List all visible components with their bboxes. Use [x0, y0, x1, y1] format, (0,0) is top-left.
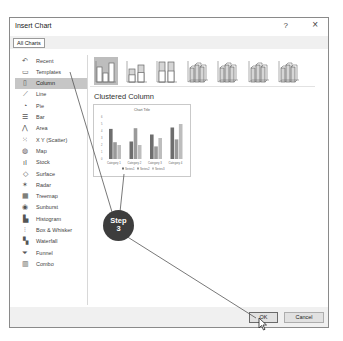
sidebar-item-waterfall[interactable]: ▚Waterfall — [15, 236, 87, 247]
subtype-3d-clustered-column[interactable] — [186, 57, 210, 85]
subtype-100-stacked-column[interactable] — [155, 57, 179, 85]
sidebar-item-label: Column — [36, 80, 55, 86]
sidebar-item-funnel[interactable]: ⏷Funnel — [15, 247, 87, 258]
sidebar-item-label: Stock — [36, 159, 50, 165]
subtype-3d-column[interactable] — [277, 57, 301, 85]
sidebar-item-line[interactable]: ⟋Line — [15, 89, 87, 100]
svg-text:3: 3 — [101, 136, 103, 140]
subtype-title: Clustered Column — [94, 92, 154, 101]
tab-all-charts[interactable]: All Charts — [13, 38, 45, 48]
subtype-clustered-column[interactable] — [94, 57, 118, 85]
treemap-chart-icon: ▦ — [20, 192, 30, 200]
chart-type-list: ↶Recent▭Templates▯Column⟋Line◔Pie☰Bar⋀Ar… — [15, 55, 88, 305]
sidebar-item-label: Histogram — [36, 216, 61, 222]
tab-bar: All Charts — [10, 36, 328, 49]
chart-preview: Chart Title 6543210Category 1Category 2C… — [93, 104, 191, 177]
radar-chart-icon: ✶ — [20, 181, 30, 189]
insert-chart-dialog: Insert Chart ? × All Charts ↶Recent▭Temp… — [9, 17, 329, 328]
column-chart-icon — [247, 57, 271, 85]
svg-text:Series3: Series3 — [155, 167, 165, 171]
combo-chart-icon: ▥ — [20, 260, 30, 268]
sidebar-item-label: Map — [36, 148, 47, 154]
dialog-title: Insert Chart — [15, 22, 52, 29]
surface-chart-icon: ◇ — [20, 170, 30, 178]
column-chart-icon — [277, 57, 301, 85]
histogram-chart-icon: ▙ — [20, 215, 30, 223]
stock-chart-icon: ıI — [20, 159, 30, 166]
recent-icon: ↶ — [20, 57, 30, 65]
chart-content-pane: Clustered Column Chart Title 6543210Cate… — [90, 49, 325, 309]
sidebar-item-label: Sunburst — [36, 204, 58, 210]
sidebar-item-label: Radar — [36, 182, 51, 188]
sidebar-item-label: Funnel — [36, 250, 53, 256]
column-chart-icon: ▯ — [20, 79, 30, 87]
cancel-button[interactable]: Cancel — [284, 312, 324, 323]
sidebar-item-label: Bar — [36, 114, 45, 120]
svg-text:6: 6 — [101, 115, 103, 119]
svg-text:Category 4: Category 4 — [169, 161, 183, 165]
sidebar-item-combo[interactable]: ▥Combo — [15, 258, 87, 269]
sidebar-item-recent[interactable]: ↶Recent — [15, 55, 87, 66]
funnel-chart-icon: ⏷ — [20, 249, 30, 257]
sidebar-item-x-y-scatter[interactable]: ⁙X Y (Scatter) — [15, 134, 87, 145]
sidebar-item-label: Box & Whisker — [36, 227, 72, 233]
sidebar-item-map[interactable]: ◍Map — [15, 145, 87, 156]
sidebar-item-label: Line — [36, 91, 46, 97]
sidebar-item-box-whisker[interactable]: ⫶Box & Whisker — [15, 225, 87, 236]
sidebar-item-radar[interactable]: ✶Radar — [15, 179, 87, 190]
svg-text:Series1: Series1 — [125, 167, 135, 171]
sidebar-item-treemap[interactable]: ▦Treemap — [15, 191, 87, 202]
sidebar-item-label: Pie — [36, 103, 44, 109]
templates-icon: ▭ — [20, 68, 30, 76]
dialog-footer: OK Cancel — [10, 307, 328, 327]
svg-text:2: 2 — [101, 143, 103, 147]
preview-chart-graphic: 6543210Category 1Category 2Category 3Cat… — [94, 105, 192, 178]
map-chart-icon: ◍ — [20, 147, 30, 155]
sidebar-item-label: Combo — [36, 261, 54, 267]
sidebar-item-surface[interactable]: ◇Surface — [15, 168, 87, 179]
column-chart-icon — [186, 57, 210, 85]
box-whisker-chart-icon: ⫶ — [20, 226, 30, 234]
sidebar-item-label: Surface — [36, 171, 55, 177]
subtype-3d-100-stacked-column[interactable] — [247, 57, 271, 85]
svg-text:Series2: Series2 — [140, 167, 150, 171]
mouse-cursor-icon — [258, 317, 268, 331]
sidebar-item-stock[interactable]: ıIStock — [15, 157, 87, 168]
svg-text:Category 1: Category 1 — [107, 161, 121, 165]
chart-subtype-gallery — [90, 55, 315, 87]
sidebar-item-sunburst[interactable]: ◉Sunburst — [15, 202, 87, 213]
sidebar-item-label: Recent — [36, 58, 53, 64]
sidebar-item-label: Waterfall — [36, 238, 58, 244]
sidebar-item-label: X Y (Scatter) — [36, 137, 67, 143]
sidebar-item-column[interactable]: ▯Column — [15, 78, 87, 89]
area-chart-icon: ⋀ — [20, 124, 30, 132]
pie-chart-icon: ◔ — [20, 102, 30, 109]
sidebar-item-templates[interactable]: ▭Templates — [15, 66, 87, 77]
svg-text:5: 5 — [101, 122, 103, 126]
sunburst-chart-icon: ◉ — [20, 203, 30, 211]
scatter-chart-icon: ⁙ — [20, 136, 30, 144]
bar-chart-icon: ☰ — [20, 113, 30, 121]
close-button[interactable]: × — [312, 20, 318, 30]
sidebar-item-area[interactable]: ⋀Area — [15, 123, 87, 134]
step-badge: Step 3 — [103, 210, 134, 241]
sidebar-item-label: Templates — [36, 69, 61, 75]
help-button[interactable]: ? — [284, 21, 288, 30]
dialog-body: ↶Recent▭Templates▯Column⟋Line◔Pie☰Bar⋀Ar… — [10, 49, 328, 309]
column-chart-icon — [216, 57, 240, 85]
sidebar-item-pie[interactable]: ◔Pie — [15, 100, 87, 111]
sidebar-item-label: Area — [36, 125, 48, 131]
column-chart-icon — [155, 57, 179, 85]
title-bar: Insert Chart ? × — [10, 18, 328, 36]
svg-text:0: 0 — [101, 157, 103, 161]
svg-text:Category 3: Category 3 — [148, 161, 162, 165]
step-number: 3 — [103, 225, 134, 233]
subtype-stacked-column[interactable] — [125, 57, 149, 85]
sidebar-item-bar[interactable]: ☰Bar — [15, 112, 87, 123]
subtype-3d-stacked-column[interactable] — [216, 57, 240, 85]
sidebar-item-label: Treemap — [36, 193, 58, 199]
svg-text:4: 4 — [101, 129, 103, 133]
sidebar-item-histogram[interactable]: ▙Histogram — [15, 213, 87, 224]
column-chart-icon — [125, 57, 149, 85]
waterfall-chart-icon: ▚ — [20, 237, 30, 245]
